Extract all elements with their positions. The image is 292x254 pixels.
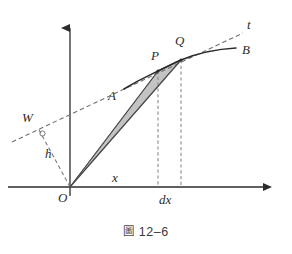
- label-Q: Q: [175, 33, 185, 48]
- geometry-diagram: O x dx P Q W h A B t: [0, 0, 292, 254]
- label-W: W: [22, 110, 34, 125]
- figure-caption: 圖12–6: [0, 222, 292, 239]
- chord-OQ: [70, 60, 181, 187]
- caption-symbol-glyph: 圖: [123, 222, 135, 238]
- perpendicular-h: [38, 128, 70, 187]
- label-O: O: [58, 190, 68, 205]
- figure-container: O x dx P Q W h A B t 圖12–6: [0, 0, 292, 254]
- label-A: A: [107, 88, 116, 103]
- label-x-axis: x: [111, 170, 118, 185]
- label-dx: dx: [159, 192, 172, 207]
- label-t-tangent: t: [247, 17, 251, 32]
- point-P-dot: [156, 69, 159, 72]
- label-P: P: [150, 48, 159, 63]
- point-Q-dot: [179, 58, 182, 61]
- label-h: h: [45, 146, 52, 161]
- caption-number: 12–6: [139, 225, 169, 239]
- label-B: B: [242, 42, 250, 57]
- curve-AB: [124, 48, 236, 89]
- right-angle-marker-icon: [40, 131, 45, 136]
